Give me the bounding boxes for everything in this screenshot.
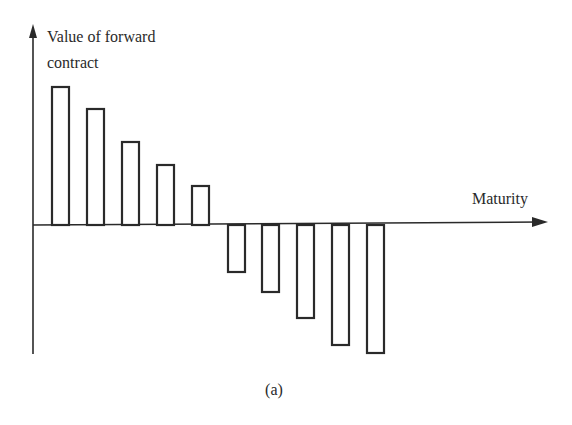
bar-maturity-8: [297, 225, 314, 318]
x-axis-label: Maturity: [472, 190, 528, 208]
x-axis-line: [33, 222, 540, 225]
bar-maturity-4: [157, 165, 174, 225]
bar-maturity-10: [367, 225, 384, 353]
figure-caption: (a): [265, 381, 283, 399]
x-axis-arrow-icon: [532, 217, 548, 227]
bar-maturity-1: [52, 87, 69, 225]
bar-maturity-9: [332, 225, 349, 345]
y-axis-arrow-icon: [29, 24, 37, 38]
bar-maturity-5: [192, 186, 209, 225]
axes: [29, 24, 548, 354]
bar-maturity-3: [122, 142, 139, 225]
forward-contract-chart: Value of forward contract Maturity (a): [0, 0, 572, 425]
y-axis-label-line2: contract: [47, 54, 99, 71]
bar-maturity-2: [87, 109, 104, 225]
y-axis-label-line1: Value of forward: [47, 28, 155, 45]
bar-maturity-6: [228, 225, 245, 272]
bar-maturity-7: [262, 225, 279, 292]
bars: [52, 87, 384, 353]
